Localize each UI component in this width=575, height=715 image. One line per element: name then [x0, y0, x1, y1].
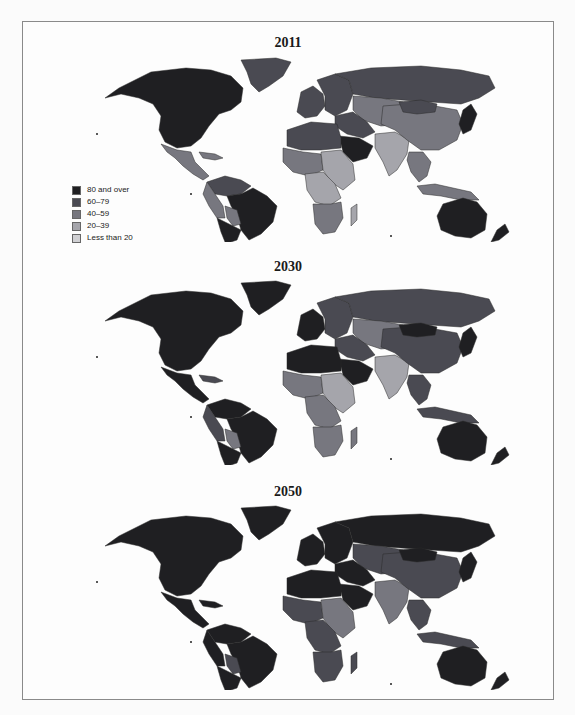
region-australia — [437, 646, 487, 686]
region-japan-korea — [459, 104, 477, 134]
region-madagascar — [351, 204, 357, 226]
region-madagascar — [351, 427, 357, 449]
region-south-asia — [375, 355, 409, 399]
island-speck — [190, 193, 192, 195]
region-north-america — [105, 291, 243, 371]
region-mexico-central-america — [161, 144, 209, 180]
region-southeast-asia — [407, 375, 431, 405]
legend-label: 80 and over — [87, 184, 129, 196]
legend-swatch — [72, 222, 81, 231]
region-west-africa — [283, 148, 323, 176]
region-australia — [437, 421, 487, 461]
region-mexico-central-america — [161, 592, 209, 628]
legend-item-less-than-20: Less than 20 — [72, 232, 133, 244]
island-speck — [190, 641, 192, 643]
legend-label: 40–59 — [87, 208, 109, 220]
region-southern-africa — [313, 650, 343, 682]
legend-swatch — [72, 186, 81, 195]
region-west-africa — [283, 371, 323, 399]
legend-label: 20–39 — [87, 220, 109, 232]
region-north-africa — [287, 570, 341, 598]
world-map-svg — [91, 502, 523, 690]
island-speck — [390, 458, 392, 460]
world-map-svg — [91, 54, 523, 242]
region-indonesia — [417, 407, 479, 423]
legend-item-20-39: 20–39 — [72, 220, 133, 232]
map-2050 — [91, 502, 523, 690]
region-west-africa — [283, 596, 323, 624]
region-south-asia — [375, 580, 409, 624]
region-north-america — [105, 516, 243, 596]
region-indonesia — [417, 184, 479, 200]
island-speck — [190, 416, 192, 418]
legend-swatch — [72, 210, 81, 219]
region-indonesia — [417, 632, 479, 648]
panel-title-2011: 2011 — [23, 35, 553, 51]
region-new-zealand — [491, 447, 509, 465]
region-western-europe — [297, 309, 325, 341]
region-western-europe — [297, 534, 325, 566]
region-greenland — [241, 506, 291, 540]
legend: 80 and over 60–79 40–59 20–39 Less than … — [72, 184, 133, 244]
region-south-asia — [375, 132, 409, 176]
region-greenland — [241, 281, 291, 315]
island-speck — [96, 356, 98, 358]
region-southern-africa — [313, 202, 343, 234]
panel-title-2050: 2050 — [23, 484, 553, 500]
region-southeast-asia — [407, 152, 431, 182]
region-north-africa — [287, 122, 341, 150]
legend-label: 60–79 — [87, 196, 109, 208]
island-speck — [390, 683, 392, 685]
panel-title-2030: 2030 — [23, 259, 553, 275]
region-japan-korea — [459, 327, 477, 357]
legend-item-40-59: 40–59 — [72, 208, 133, 220]
island-speck — [390, 235, 392, 237]
map-2030 — [91, 277, 523, 465]
legend-item-60-79: 60–79 — [72, 196, 133, 208]
island-speck — [96, 133, 98, 135]
region-caribbean — [199, 600, 223, 608]
region-north-america — [105, 68, 243, 148]
map-2011 — [91, 54, 523, 242]
island-speck — [96, 581, 98, 583]
region-caribbean — [199, 152, 223, 160]
legend-swatch — [72, 234, 81, 243]
region-caribbean — [199, 375, 223, 383]
region-mexico-central-america — [161, 367, 209, 403]
region-western-europe — [297, 86, 325, 118]
figure-frame: 2011 80 and over 60–79 40–59 20–39 Less … — [22, 21, 554, 700]
region-new-zealand — [491, 672, 509, 690]
region-southeast-asia — [407, 600, 431, 630]
legend-label: Less than 20 — [87, 232, 133, 244]
world-map-svg — [91, 277, 523, 465]
region-southern-africa — [313, 425, 343, 457]
region-australia — [437, 198, 487, 238]
legend-item-80-plus: 80 and over — [72, 184, 133, 196]
region-madagascar — [351, 652, 357, 674]
region-north-africa — [287, 345, 341, 373]
region-japan-korea — [459, 552, 477, 582]
legend-swatch — [72, 198, 81, 207]
region-greenland — [241, 58, 291, 92]
region-new-zealand — [491, 224, 509, 242]
